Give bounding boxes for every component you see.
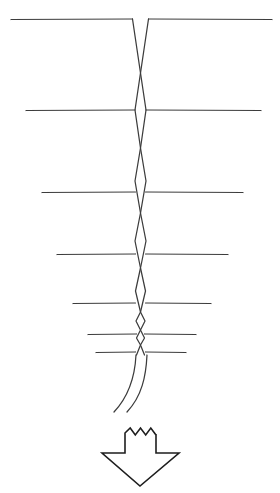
crossbar-line-6-left xyxy=(88,334,137,335)
crossbar-line-7-right xyxy=(146,352,187,353)
crossbar-line-4-left xyxy=(57,254,136,255)
crossbar-line-5-left xyxy=(73,303,136,304)
crossbar-line-3-left xyxy=(42,192,136,193)
crossbar-line-1-right xyxy=(149,19,273,20)
crossbar-line-5-right xyxy=(146,303,212,304)
crossbar-line-4-right xyxy=(146,254,229,255)
crossbar-line-6-right xyxy=(145,334,197,335)
crossbar-line-7-left xyxy=(96,352,136,353)
crossbar-line-2-left xyxy=(26,110,135,111)
crossbar-line-3-right xyxy=(146,192,244,193)
crossbar-line-1-left xyxy=(11,19,133,20)
crossbar-line-2-right xyxy=(146,110,261,111)
braided-strand-diagram xyxy=(0,0,280,493)
figure-root: Braided Strand Diagram xyxy=(0,0,280,493)
